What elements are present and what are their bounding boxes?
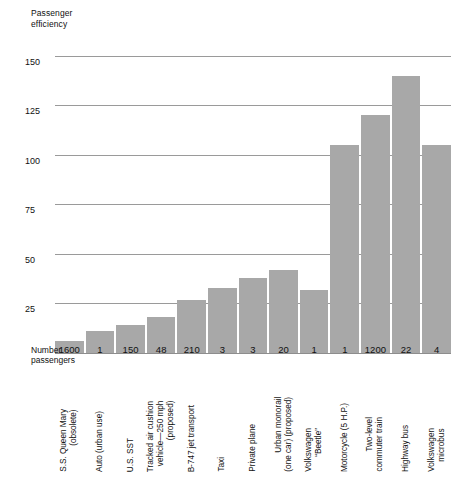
category-label-slot: Private plane [239,362,268,474]
passenger-count-cell: 3 [208,344,237,360]
category-label: Tracked air cushion vehicle—250 mph (pro… [146,401,176,472]
passenger-efficiency-chart: Passenger efficiency 255075100125150 Num… [0,0,466,478]
bar-slot [86,40,115,353]
category-label: Private plane [248,424,258,472]
bar-slot [269,40,298,353]
bar-slot [239,40,268,353]
passenger-count-cell: 210 [177,344,206,360]
bar-slot [422,40,451,353]
category-label: Highway bus [401,425,411,472]
y-tick-label: 25 [25,304,53,314]
y-tick-label: 50 [25,255,53,265]
category-label: S.S. Queen Mary (obsolete) [59,409,79,472]
bar-slot [392,40,421,353]
bar-slot [147,40,176,353]
category-label-slot: B-747 jet transport [177,362,206,474]
category-label-slot: Volkswagen microbus [422,362,451,474]
category-label: Auto (urban use) [95,411,105,472]
category-label-slot: Motorcycle (5 H.P.) [330,362,359,474]
passenger-count-cell: 3 [239,344,268,360]
category-label: Motorcycle (5 H.P.) [340,403,350,472]
bar-slot [300,40,329,353]
y-tick-label: 125 [25,106,53,116]
bar-slot [330,40,359,353]
bar [361,115,390,353]
bar-slot [116,40,145,353]
category-label-slot: Urban monorail (one car) (proposed) [269,362,298,474]
category-label: Two-level commuter train [365,417,385,472]
category-label-slot: Two-level commuter train [361,362,390,474]
y-tick-label: 75 [25,205,53,215]
passenger-count-cell: 48 [147,344,176,360]
bar-slot [361,40,390,353]
passenger-count-cell: 1600 [55,344,84,360]
passenger-count-cell: 1 [300,344,329,360]
passenger-count-cell: 20 [269,344,298,360]
passenger-counts-row: 16001150482103320111200224 [55,344,451,360]
category-label: U.S. SST [126,438,136,472]
bar [392,76,421,353]
category-label: Urban monorail (one car) (proposed) [274,397,294,472]
category-label-slot: Tracked air cushion vehicle—250 mph (pro… [147,362,176,474]
bars-container [55,40,451,353]
bar [422,145,451,353]
bar [239,278,268,353]
passenger-count-cell: 1200 [361,344,390,360]
bar-slot [208,40,237,353]
y-tick-label: 150 [25,57,53,67]
category-label: Volkswagen microbus [427,428,447,472]
y-axis-title: Passenger efficiency [31,8,73,29]
y-tick-label: 100 [25,156,53,166]
bar-slot [177,40,206,353]
category-labels-row: S.S. Queen Mary (obsolete)Auto (urban us… [55,362,451,474]
passenger-count-cell: 1 [330,344,359,360]
passenger-count-cell: 150 [116,344,145,360]
category-label-slot: U.S. SST [116,362,145,474]
category-label: B-747 jet transport [187,405,197,472]
passenger-count-cell: 22 [392,344,421,360]
category-label-slot: S.S. Queen Mary (obsolete) [55,362,84,474]
category-label-slot: Auto (urban use) [86,362,115,474]
bar [269,270,298,353]
category-label: Taxi [217,457,227,472]
category-label-slot: Taxi [208,362,237,474]
bar-slot [55,40,84,353]
bar [330,145,359,353]
category-label-slot: Highway bus [392,362,421,474]
passenger-count-cell: 1 [86,344,115,360]
category-label-slot: Volkswagen “Beetle” [300,362,329,474]
category-label: Volkswagen “Beetle” [304,428,324,472]
passenger-count-cell: 4 [422,344,451,360]
